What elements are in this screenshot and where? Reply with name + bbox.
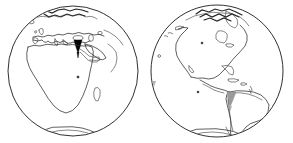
figure-background — [0, 0, 293, 143]
interior-lake-marker-south — [197, 91, 199, 93]
interior-lake-marker-north — [201, 42, 203, 44]
hemispheres-svg — [0, 0, 293, 143]
lake-victoria — [77, 76, 79, 78]
globe-figure — [0, 0, 293, 143]
